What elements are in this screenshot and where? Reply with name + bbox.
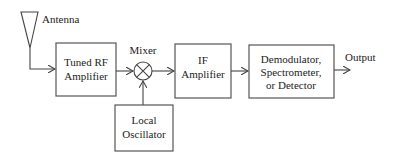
output-label: Output bbox=[345, 51, 376, 63]
antenna-icon bbox=[21, 12, 38, 48]
receiver-block-diagram: Antenna Tuned RF Amplifier Mixer Local O… bbox=[0, 0, 395, 158]
wire-antenna-to-rf bbox=[30, 48, 55, 69]
antenna-label: Antenna bbox=[42, 13, 79, 25]
mixer-label: Mixer bbox=[130, 44, 157, 56]
tuned-rf-line-1: Tuned RF bbox=[64, 56, 108, 68]
tuned-rf-line-2: Amplifier bbox=[64, 70, 108, 82]
demodulator-line-3: or Detector bbox=[266, 79, 316, 91]
if-amplifier-block: IF Amplifier bbox=[175, 44, 231, 98]
if-amplifier-line-2: Amplifier bbox=[181, 68, 225, 80]
local-oscillator-block: Local Oscillator bbox=[115, 105, 173, 151]
if-amplifier-line-1: IF bbox=[198, 54, 208, 66]
local-oscillator-line-1: Local bbox=[131, 114, 156, 126]
demodulator-line-1: Demodulator, bbox=[261, 53, 322, 65]
mixer: Mixer bbox=[130, 44, 157, 80]
demodulator-line-2: Spectrometer, bbox=[261, 66, 322, 78]
demodulator-block: Demodulator, Spectrometer, or Detector bbox=[249, 45, 334, 98]
tuned-rf-amplifier-block: Tuned RF Amplifier bbox=[56, 43, 116, 96]
local-oscillator-line-2: Oscillator bbox=[122, 128, 166, 140]
